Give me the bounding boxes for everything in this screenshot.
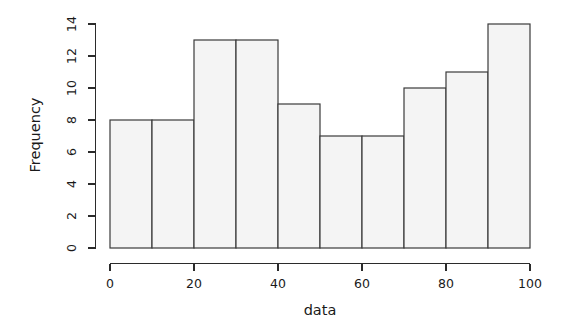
x-axis-title: data xyxy=(304,302,337,318)
y-tick-label: 12 xyxy=(64,48,79,64)
y-tick-label: 10 xyxy=(64,80,79,96)
y-tick-labels: 02468101214 xyxy=(64,16,79,252)
histogram-bar xyxy=(152,120,194,248)
histogram-bar xyxy=(110,120,152,248)
histogram-bar xyxy=(236,40,278,248)
histogram-bar xyxy=(194,40,236,248)
x-tick-label: 100 xyxy=(518,276,542,291)
x-tick-labels: 020406080100 xyxy=(106,276,542,291)
histogram-bar xyxy=(404,88,446,248)
y-tick-label: 2 xyxy=(64,212,79,220)
histogram-bar xyxy=(320,136,362,248)
x-tick-label: 0 xyxy=(106,276,114,291)
x-tick-label: 20 xyxy=(186,276,202,291)
y-tick-label: 0 xyxy=(64,244,79,252)
y-tick-label: 6 xyxy=(64,148,79,156)
x-tick-label: 40 xyxy=(270,276,286,291)
y-tick-marks xyxy=(88,24,96,248)
histogram-bar xyxy=(362,136,404,248)
x-tick-label: 60 xyxy=(354,276,370,291)
histogram-bar xyxy=(446,72,488,248)
histogram-bar xyxy=(278,104,320,248)
y-tick-label: 14 xyxy=(64,16,79,32)
histogram-plot: 02468101214 020406080100 Frequency data xyxy=(0,0,566,336)
x-tick-label: 80 xyxy=(438,276,454,291)
x-tick-marks xyxy=(110,264,530,272)
y-tick-label: 8 xyxy=(64,116,79,124)
y-axis xyxy=(88,24,96,248)
y-tick-label: 4 xyxy=(64,180,79,188)
histogram-bar xyxy=(488,24,530,248)
histogram-figure: 02468101214 020406080100 Frequency data xyxy=(0,0,566,336)
y-axis-title: Frequency xyxy=(27,97,43,172)
bars-group xyxy=(110,24,530,248)
x-axis xyxy=(110,264,530,272)
